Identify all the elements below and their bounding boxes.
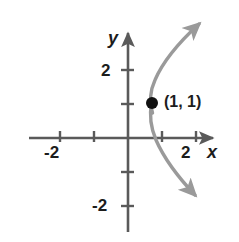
graph-figure: -2 2 2 -2 x y (1, 1) [0, 0, 239, 242]
marked-point-dot [146, 97, 158, 109]
y-axis-label: y [108, 29, 118, 47]
x-tick-label-neg2: -2 [44, 144, 59, 161]
y-tick-label-neg2: -2 [92, 197, 107, 214]
marked-point-label: (1, 1) [164, 94, 201, 110]
y-tick-label-pos2: 2 [101, 62, 110, 79]
x-tick-label-pos2: 2 [181, 144, 190, 161]
coordinate-plane-svg [0, 0, 239, 242]
x-axis-label: x [207, 143, 217, 161]
